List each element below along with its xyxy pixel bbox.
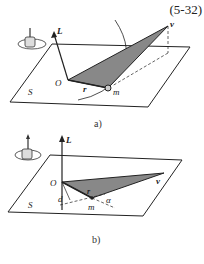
caption-a: a) (94, 118, 102, 129)
figure-a: L O r m v S (10, 19, 190, 107)
mass-point-m (105, 85, 111, 91)
axis-l-a (54, 34, 68, 80)
caption-b: b) (92, 234, 100, 245)
diagram-canvas: L O r m v S L O r m v S d α (0, 0, 204, 264)
figure-b: L O r m v S d α (8, 134, 182, 216)
label-l-b: L (65, 135, 72, 145)
label-l: L (56, 26, 63, 36)
label-v-b: v (156, 176, 161, 186)
extension-dash (92, 198, 115, 208)
right-hand-rule-icon (18, 28, 46, 49)
label-o: O (55, 78, 62, 88)
label-m: m (113, 87, 120, 97)
label-s-b: S (28, 200, 33, 210)
shaded-area-b (62, 173, 164, 198)
label-v: v (170, 19, 175, 29)
shaded-area-a (68, 26, 168, 88)
label-alpha: α (106, 195, 111, 205)
right-hand-rule-icon (15, 134, 41, 160)
mass-point-m-b (90, 196, 94, 200)
label-r: r (83, 84, 87, 94)
label-o-b: O (50, 178, 57, 188)
label-s: S (28, 87, 33, 97)
label-m-b: m (88, 202, 95, 212)
label-d: d (58, 194, 63, 204)
arrowhead-icon (59, 135, 65, 142)
